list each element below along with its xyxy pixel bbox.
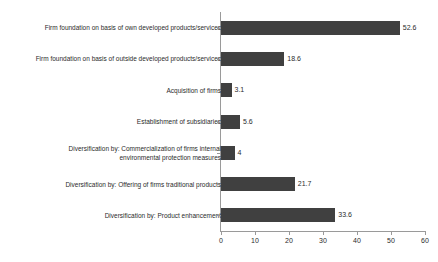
category-label: Establishment of subsidiaries bbox=[137, 117, 221, 126]
category-label: Diversification by: Offering of firms tr… bbox=[65, 180, 221, 189]
x-axis-tick-label: 0 bbox=[219, 237, 223, 244]
bar-chart: Firm foundation on basis of own develope… bbox=[0, 0, 438, 262]
category-label: Acquisition of firms bbox=[166, 86, 221, 95]
x-axis-tick-label: 50 bbox=[387, 237, 395, 244]
bar-value-label: 5.6 bbox=[243, 115, 253, 129]
bar bbox=[221, 177, 295, 191]
y-axis-tick bbox=[217, 153, 221, 154]
bar bbox=[221, 146, 235, 160]
category-label: Firm foundation on basis of own develope… bbox=[45, 23, 221, 32]
y-axis-tick bbox=[217, 184, 221, 185]
x-axis-tick bbox=[357, 231, 358, 235]
bar-value-label: 4 bbox=[238, 146, 242, 160]
x-axis-tick-label: 20 bbox=[285, 237, 293, 244]
y-axis-tick bbox=[217, 90, 221, 91]
bar-value-label: 33.6 bbox=[338, 208, 352, 222]
category-label: Firm foundation on basis of outside deve… bbox=[36, 54, 221, 63]
category-label: Diversification by: Commercialization of… bbox=[69, 144, 221, 162]
x-axis-tick bbox=[255, 231, 256, 235]
y-axis-tick bbox=[217, 122, 221, 123]
y-axis-tick bbox=[217, 59, 221, 60]
x-axis-tick bbox=[289, 231, 290, 235]
x-axis-tick-label: 40 bbox=[353, 237, 361, 244]
x-axis-tick-label: 10 bbox=[251, 237, 259, 244]
bar-value-label: 18.6 bbox=[287, 52, 301, 66]
bar bbox=[221, 208, 335, 222]
x-axis-tick bbox=[425, 231, 426, 235]
x-axis-tick bbox=[221, 231, 222, 235]
x-axis-tick-label: 60 bbox=[421, 237, 429, 244]
bar bbox=[221, 115, 240, 129]
x-axis-tick bbox=[391, 231, 392, 235]
bar bbox=[221, 83, 232, 97]
bar-value-label: 21.7 bbox=[298, 177, 312, 191]
bar-value-label: 3.1 bbox=[235, 83, 245, 97]
y-axis-tick bbox=[217, 215, 221, 216]
x-axis-tick bbox=[323, 231, 324, 235]
x-axis-tick-label: 30 bbox=[319, 237, 327, 244]
y-axis-tick bbox=[217, 28, 221, 29]
category-label: Diversification by: Product enhancement bbox=[105, 211, 221, 220]
bar bbox=[221, 52, 284, 66]
bar bbox=[221, 21, 400, 35]
bar-value-label: 52.6 bbox=[403, 21, 417, 35]
